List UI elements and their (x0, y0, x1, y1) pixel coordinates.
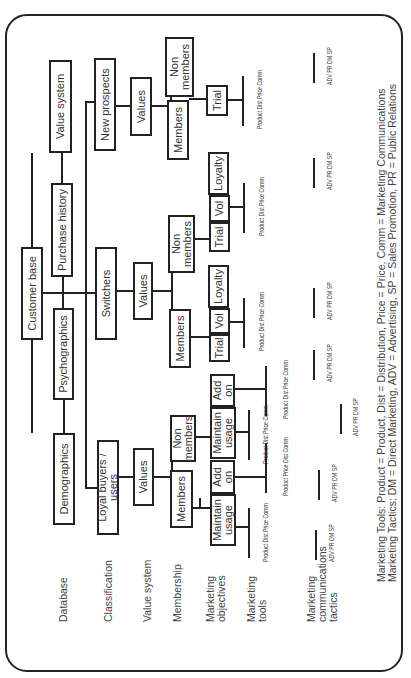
tactic-bracket (313, 53, 315, 83)
row-label-classification: Classification (103, 560, 114, 622)
node-trial-switchers-members: Trial (209, 334, 230, 362)
node-loyalty-switchers-nonmembers: Loyalty (208, 152, 229, 195)
connector (31, 340, 33, 433)
node-loyal-buyers-users: Loyal buyers / users (97, 440, 119, 535)
connector (31, 153, 33, 247)
connector (195, 238, 209, 240)
connector (153, 290, 171, 292)
connector (228, 99, 242, 101)
tactic-bracket (313, 158, 315, 188)
connector (193, 507, 210, 509)
connector (85, 487, 97, 489)
connector (191, 336, 209, 338)
connector (61, 153, 63, 183)
row-label-marketing-objectives: Marketing objectives (205, 575, 227, 622)
node-loyalty-switchers-members: Loyalty (208, 265, 229, 308)
tools-label-5: Product Dist Price Comm (258, 292, 265, 351)
connector (199, 498, 201, 509)
label-line: Non (171, 221, 182, 267)
node-new-prospects: New prospects (94, 58, 116, 151)
connector (235, 476, 265, 478)
connector (196, 436, 210, 438)
tools-label-6: Product Dist Price Comm (258, 177, 265, 236)
tools-label-2: Product Price Dist Comm (282, 437, 289, 496)
connector (85, 102, 87, 488)
node-values-loyal: Values (133, 448, 154, 506)
node-value-system: Value system (49, 60, 72, 153)
tool-bracket (248, 410, 250, 460)
node-customer-base: Customer base (21, 247, 43, 340)
tactics-label-1: ADV PR DM SP (328, 524, 335, 562)
label-line: usage (223, 412, 234, 454)
label-line: on (223, 467, 234, 487)
label-line: Add (212, 467, 223, 487)
legend-marketing-tactics: Marketing Tactics: DM = Direct Marketing… (387, 84, 398, 582)
tool-bracket (242, 76, 244, 126)
connector (117, 290, 133, 292)
label-line: Add (212, 381, 223, 401)
tactics-label-7: ADV PR DM SP (326, 47, 333, 85)
row-label-marketing-tools: Marketing tools (246, 576, 268, 622)
node-trial-switchers-nonmembers: Trial (209, 222, 230, 252)
tactics-label-5: ADV PR DM SP (326, 282, 333, 320)
connector (229, 321, 243, 323)
connector (85, 101, 94, 103)
connector (229, 206, 243, 208)
node-values-switchers: Values (133, 262, 153, 320)
tactics-label-6: ADV PR DM SP (326, 152, 333, 190)
node-maintain-usage-2: Maintainusage (210, 407, 236, 459)
connector (116, 105, 130, 107)
node-maintain-usage-1: Maintainusage (210, 494, 236, 546)
node-vol-switchers: Vol (209, 308, 230, 334)
row-label-membership: Membership (172, 564, 183, 622)
node-members-new-prospects: Members (167, 100, 189, 160)
label-line: members (182, 221, 193, 267)
node-demographics: Demographics (53, 433, 75, 525)
connector (236, 526, 248, 528)
connector (43, 292, 95, 294)
tool-bracket (243, 183, 245, 233)
row-label-value-system: Value system (142, 560, 153, 622)
tool-bracket (248, 508, 250, 558)
node-members-switchers: Members (169, 309, 191, 368)
tactic-bracket (313, 350, 315, 380)
node-vol-switchers-nonmembers: Vol (209, 195, 230, 222)
tactics-label-2: ADV PR DM SP (331, 464, 338, 502)
label-line: members (183, 416, 194, 462)
node-trial-new-prospects: Trial (206, 85, 228, 116)
tool-bracket (265, 366, 267, 416)
node-non-members-new-prospects: Nonmembers (165, 37, 194, 97)
tactic-bracket (315, 530, 317, 560)
label-line: Non (169, 44, 180, 90)
tools-label-1: Product Dist Price Comm (262, 503, 269, 562)
node-non-members-switchers: Nonmembers (168, 215, 195, 273)
row-label-database: Database (58, 577, 69, 622)
node-non-members-loyal: Nonmembers (170, 415, 196, 462)
node-switchers: Switchers (95, 247, 117, 340)
connector (189, 98, 206, 100)
node-purchase-history: Purchase history (51, 183, 73, 277)
tactics-label-4: ADV PR DM SP (326, 344, 333, 382)
label-line: members (180, 44, 191, 90)
row-label-line: tools (257, 576, 268, 622)
tactic-bracket (318, 470, 320, 500)
node-values-new-prospects: Values (130, 77, 152, 136)
row-label-line: objectives (216, 575, 227, 622)
connector (235, 388, 265, 390)
tools-label-4: Product Dist Price Comm (282, 360, 289, 419)
connector (119, 476, 133, 478)
label-line: on (223, 381, 234, 401)
tool-bracket (243, 298, 245, 348)
tactics-label-3: ADV PR DM SP (352, 398, 359, 436)
diagram-canvas: Database Classification Value system Mem… (0, 0, 411, 678)
node-add-on-1: Addon (210, 460, 235, 494)
connector (63, 400, 65, 433)
label-line: usage (223, 499, 234, 541)
node-add-on-2: Addon (210, 374, 235, 407)
node-members-loyal: Members (170, 470, 193, 528)
tools-label-7: Product Dist Price Comm (256, 70, 263, 129)
node-psychographics: Psychographics (53, 308, 74, 400)
connector (236, 431, 248, 433)
tactic-bracket (313, 288, 315, 318)
tactic-bracket (340, 404, 342, 434)
